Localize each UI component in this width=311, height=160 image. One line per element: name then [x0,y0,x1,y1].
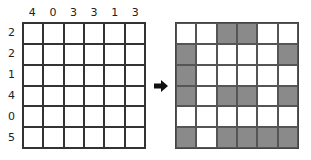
grid-cell [125,44,145,65]
column-clue: 3 [125,6,146,19]
filled-cell [237,127,257,148]
empty-puzzle-grid [22,22,146,149]
grid-cell [64,44,84,65]
filled-cell [176,65,196,86]
grid-cell [125,65,145,86]
empty-cell [278,106,298,127]
grid-cell [23,44,43,65]
row-clue: 2 [8,43,15,64]
empty-cell [196,44,216,65]
grid-cell [23,106,43,127]
grid-cell [84,106,104,127]
grid-cell [84,86,104,107]
grid-cell [64,106,84,127]
right-arrow-icon [154,80,168,92]
row-clue: 5 [8,127,15,148]
grid-cell [23,65,43,86]
filled-cell [217,86,237,107]
grid-cell [84,127,104,148]
grid-cell [64,127,84,148]
filled-cell [217,23,237,44]
column-clue: 3 [63,6,84,19]
filled-cell [176,127,196,148]
empty-cell [196,86,216,107]
empty-cell [217,106,237,127]
grid-cell [125,23,145,44]
filled-cell [176,86,196,107]
grid-cell [23,86,43,107]
grid-cell [64,65,84,86]
grid-cell [43,65,63,86]
grid-cell [125,127,145,148]
column-clue: 1 [104,6,125,19]
grid-cell [43,127,63,148]
filled-cell [237,23,257,44]
grid-cell [43,44,63,65]
filled-cell [278,44,298,65]
empty-cell [237,44,257,65]
grid-cell [104,44,124,65]
filled-cell [237,86,257,107]
filled-cell [217,127,237,148]
column-clue: 4 [22,6,43,19]
grid-cell [23,127,43,148]
grid-cell [43,23,63,44]
grid-cell [43,106,63,127]
row-clue: 0 [8,106,15,127]
grid-cell [104,23,124,44]
empty-cell [196,106,216,127]
column-clue: 0 [43,6,64,19]
empty-cell [196,65,216,86]
empty-cell [217,44,237,65]
empty-cell [237,106,257,127]
grid-cell [64,23,84,44]
empty-cell [196,23,216,44]
grid-cell [84,23,104,44]
empty-cell [196,127,216,148]
empty-cell [176,106,196,127]
empty-cell [257,23,277,44]
empty-cell [257,65,277,86]
solved-puzzle-grid [175,22,299,149]
grid-cell [43,86,63,107]
grid-cell [104,86,124,107]
row-clue: 1 [8,64,15,85]
empty-cell [257,44,277,65]
row-clue: 2 [8,22,15,43]
grid-cell [104,65,124,86]
grid-cell [125,86,145,107]
grid-cell [125,106,145,127]
grid-cell [104,106,124,127]
empty-cell [237,65,257,86]
empty-cell [257,86,277,107]
filled-cell [257,127,277,148]
column-clue: 3 [84,6,105,19]
grid-cell [84,44,104,65]
filled-cell [176,44,196,65]
grid-cell [104,127,124,148]
filled-cell [278,86,298,107]
empty-cell [257,106,277,127]
grid-cell [23,23,43,44]
empty-cell [278,65,298,86]
empty-cell [176,23,196,44]
empty-cell [217,65,237,86]
empty-cell [278,23,298,44]
grid-cell [84,65,104,86]
filled-cell [278,127,298,148]
grid-cell [64,86,84,107]
row-clue: 4 [8,85,15,106]
